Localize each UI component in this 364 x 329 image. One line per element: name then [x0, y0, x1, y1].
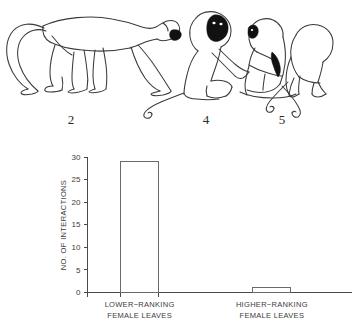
y-axis-ticks: [84, 157, 88, 293]
eye-right: [219, 23, 222, 26]
y-tick-label-25: 25: [72, 175, 81, 184]
y-tick-label-20: 20: [72, 198, 81, 207]
y-tick-label-0: 0: [76, 288, 81, 297]
panel-number-4: 4: [194, 112, 218, 128]
y-tick-label-15: 15: [72, 220, 81, 229]
figure-container: 2 4 5 051015202530 LOWER−RANKINGFEMALE L…: [0, 0, 364, 329]
y-tick-label-10: 10: [72, 243, 81, 252]
bar-0: [121, 162, 159, 293]
panel-number-2: 2: [59, 112, 83, 128]
bar-1: [253, 288, 291, 293]
bar-chart-svg: 051015202530 LOWER−RANKINGFEMALE LEAVESH…: [0, 140, 364, 329]
eye: [251, 29, 253, 31]
category-label-1-line-1: FEMALE LEAVES: [240, 311, 305, 320]
monkey-illustrations-svg: [0, 0, 364, 140]
x-axis-category-labels: LOWER−RANKINGFEMALE LEAVESHIGHER−RANKING…: [105, 300, 308, 320]
bar-chart-panel: 051015202530 LOWER−RANKINGFEMALE LEAVESH…: [0, 140, 364, 329]
monkey-walking-icon: [7, 17, 182, 96]
y-tick-label-30: 30: [72, 153, 81, 162]
monkey-pair-grooming-icon: [144, 12, 249, 119]
category-label-0-line-1: FEMALE LEAVES: [107, 311, 172, 320]
x-axis-ticks: [88, 293, 159, 297]
y-tick-label-5: 5: [76, 266, 81, 275]
panel-number-5: 5: [270, 112, 294, 128]
eye-left: [212, 22, 215, 25]
monkey-groomed-partner-icon: [240, 19, 300, 118]
y-axis-tick-labels: 051015202530: [72, 153, 81, 298]
bar-series: [121, 162, 291, 293]
illustration-panel: 2 4 5: [0, 0, 364, 140]
category-label-0-line-0: LOWER−RANKING: [105, 300, 175, 309]
y-axis-title: NO. OF INTERACTIONS: [59, 180, 68, 270]
category-label-1-line-0: HIGHER−RANKING: [236, 300, 308, 309]
